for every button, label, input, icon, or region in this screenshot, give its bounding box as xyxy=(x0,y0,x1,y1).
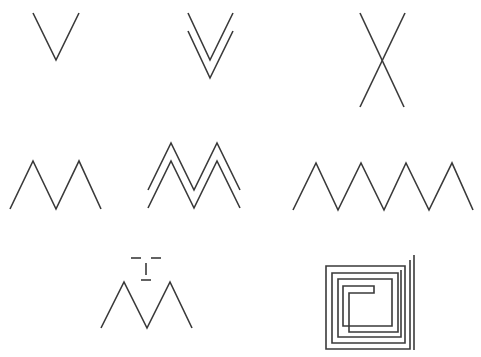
figure-single-v xyxy=(33,13,79,60)
figure-m-with-glyph xyxy=(101,258,192,328)
double-m-line-lower xyxy=(148,161,240,208)
double-v-line-upper xyxy=(188,13,233,60)
figure-x-cross xyxy=(360,13,405,107)
single-m-line xyxy=(10,161,101,209)
diagram-canvas xyxy=(0,0,481,357)
figure-double-m xyxy=(148,143,240,208)
figure-long-zigzag xyxy=(293,163,473,210)
long-zigzag-line xyxy=(293,163,473,210)
glyph-m-line xyxy=(101,282,192,328)
figure-double-v xyxy=(188,13,233,78)
double-v-line-lower xyxy=(188,31,233,78)
spiral-path xyxy=(326,260,410,349)
double-m-line-upper xyxy=(148,143,240,190)
figure-single-m xyxy=(10,161,101,209)
single-v-line xyxy=(33,13,79,60)
figure-square-spiral xyxy=(326,255,414,350)
